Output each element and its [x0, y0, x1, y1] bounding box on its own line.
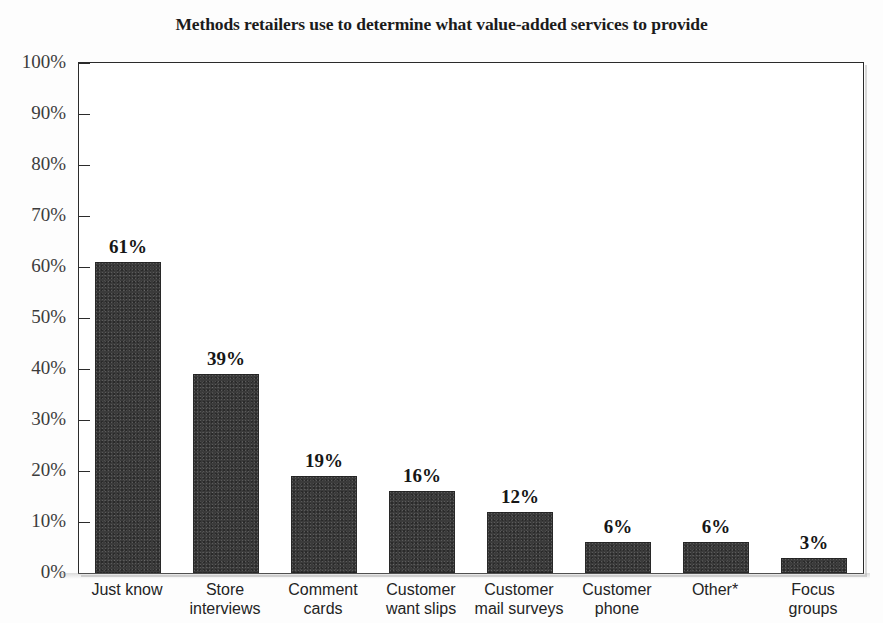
bar	[95, 262, 160, 573]
bar	[585, 542, 650, 573]
y-axis-tick-label: 80%	[0, 153, 66, 175]
y-axis-tick-label: 50%	[0, 306, 66, 328]
y-axis-tick-mark	[79, 522, 90, 523]
bar-value-label: 61%	[95, 236, 160, 258]
x-axis-label-line1: Just know	[91, 581, 162, 598]
x-axis-tick-label: Commentcards	[274, 580, 372, 618]
x-axis-tick-label: Just know	[78, 580, 176, 599]
x-axis-label-line1: Customer	[386, 581, 455, 598]
y-axis-tick-mark	[79, 63, 90, 64]
y-axis-tick-mark	[79, 216, 90, 217]
x-axis-tick-label: Other*	[666, 580, 764, 599]
x-axis-tick-label: Customerwant slips	[372, 580, 470, 618]
y-axis-tick-mark	[79, 318, 90, 319]
bar-value-label: 19%	[291, 450, 356, 472]
bar-value-label: 12%	[487, 486, 552, 508]
x-axis-label-line2: interviews	[176, 599, 274, 618]
x-axis-label-line1: Other*	[692, 581, 738, 598]
y-axis-tick-label: 0%	[0, 561, 66, 583]
y-axis-tick-label: 30%	[0, 408, 66, 430]
bar-value-label: 39%	[193, 348, 258, 370]
x-axis-tick-label: Storeinterviews	[176, 580, 274, 618]
x-axis-label-line2: want slips	[372, 599, 470, 618]
y-axis-tick-mark	[79, 369, 90, 370]
bar	[389, 491, 454, 573]
bar-value-label: 3%	[781, 532, 846, 554]
bar	[193, 374, 258, 573]
x-axis-label-line2: mail surveys	[470, 599, 568, 618]
x-axis-label-line1: Customer	[582, 581, 651, 598]
x-axis-tick-label: Focusgroups	[764, 580, 862, 618]
bar-value-label: 6%	[683, 516, 748, 538]
x-axis-label-line1: Focus	[791, 581, 835, 598]
page-title: Methods retailers use to determine what …	[0, 14, 883, 35]
plot-area: 61%39%19%16%12%6%6%3%	[78, 62, 864, 574]
x-axis-label-line2: cards	[274, 599, 372, 618]
y-axis-tick-label: 90%	[0, 102, 66, 124]
x-axis-label-line1: Store	[206, 581, 244, 598]
bar-value-label: 16%	[389, 465, 454, 487]
x-axis-tick-label: Customerphone	[568, 580, 666, 618]
bar	[291, 476, 356, 573]
x-axis-label-line2: groups	[764, 599, 862, 618]
y-axis-tick-mark	[79, 267, 90, 268]
bar	[781, 558, 846, 573]
bar-value-label: 6%	[585, 516, 650, 538]
y-axis-tick-mark	[79, 165, 90, 166]
chart-page: Methods retailers use to determine what …	[0, 0, 883, 623]
y-axis-tick-label: 10%	[0, 510, 66, 532]
y-axis-tick-mark	[79, 114, 90, 115]
y-axis-tick-label: 100%	[0, 51, 66, 73]
bar	[683, 542, 748, 573]
y-axis-tick-label: 20%	[0, 459, 66, 481]
x-axis-label-line1: Customer	[484, 581, 553, 598]
x-axis-label-line1: Comment	[288, 581, 357, 598]
y-axis-tick-label: 60%	[0, 255, 66, 277]
y-axis-tick-label: 70%	[0, 204, 66, 226]
y-axis-tick-mark	[79, 471, 90, 472]
x-axis-tick-label: Customermail surveys	[470, 580, 568, 618]
x-axis-label-line2: phone	[568, 599, 666, 618]
bar	[487, 512, 552, 573]
y-axis-tick-mark	[79, 420, 90, 421]
y-axis-tick-label: 40%	[0, 357, 66, 379]
